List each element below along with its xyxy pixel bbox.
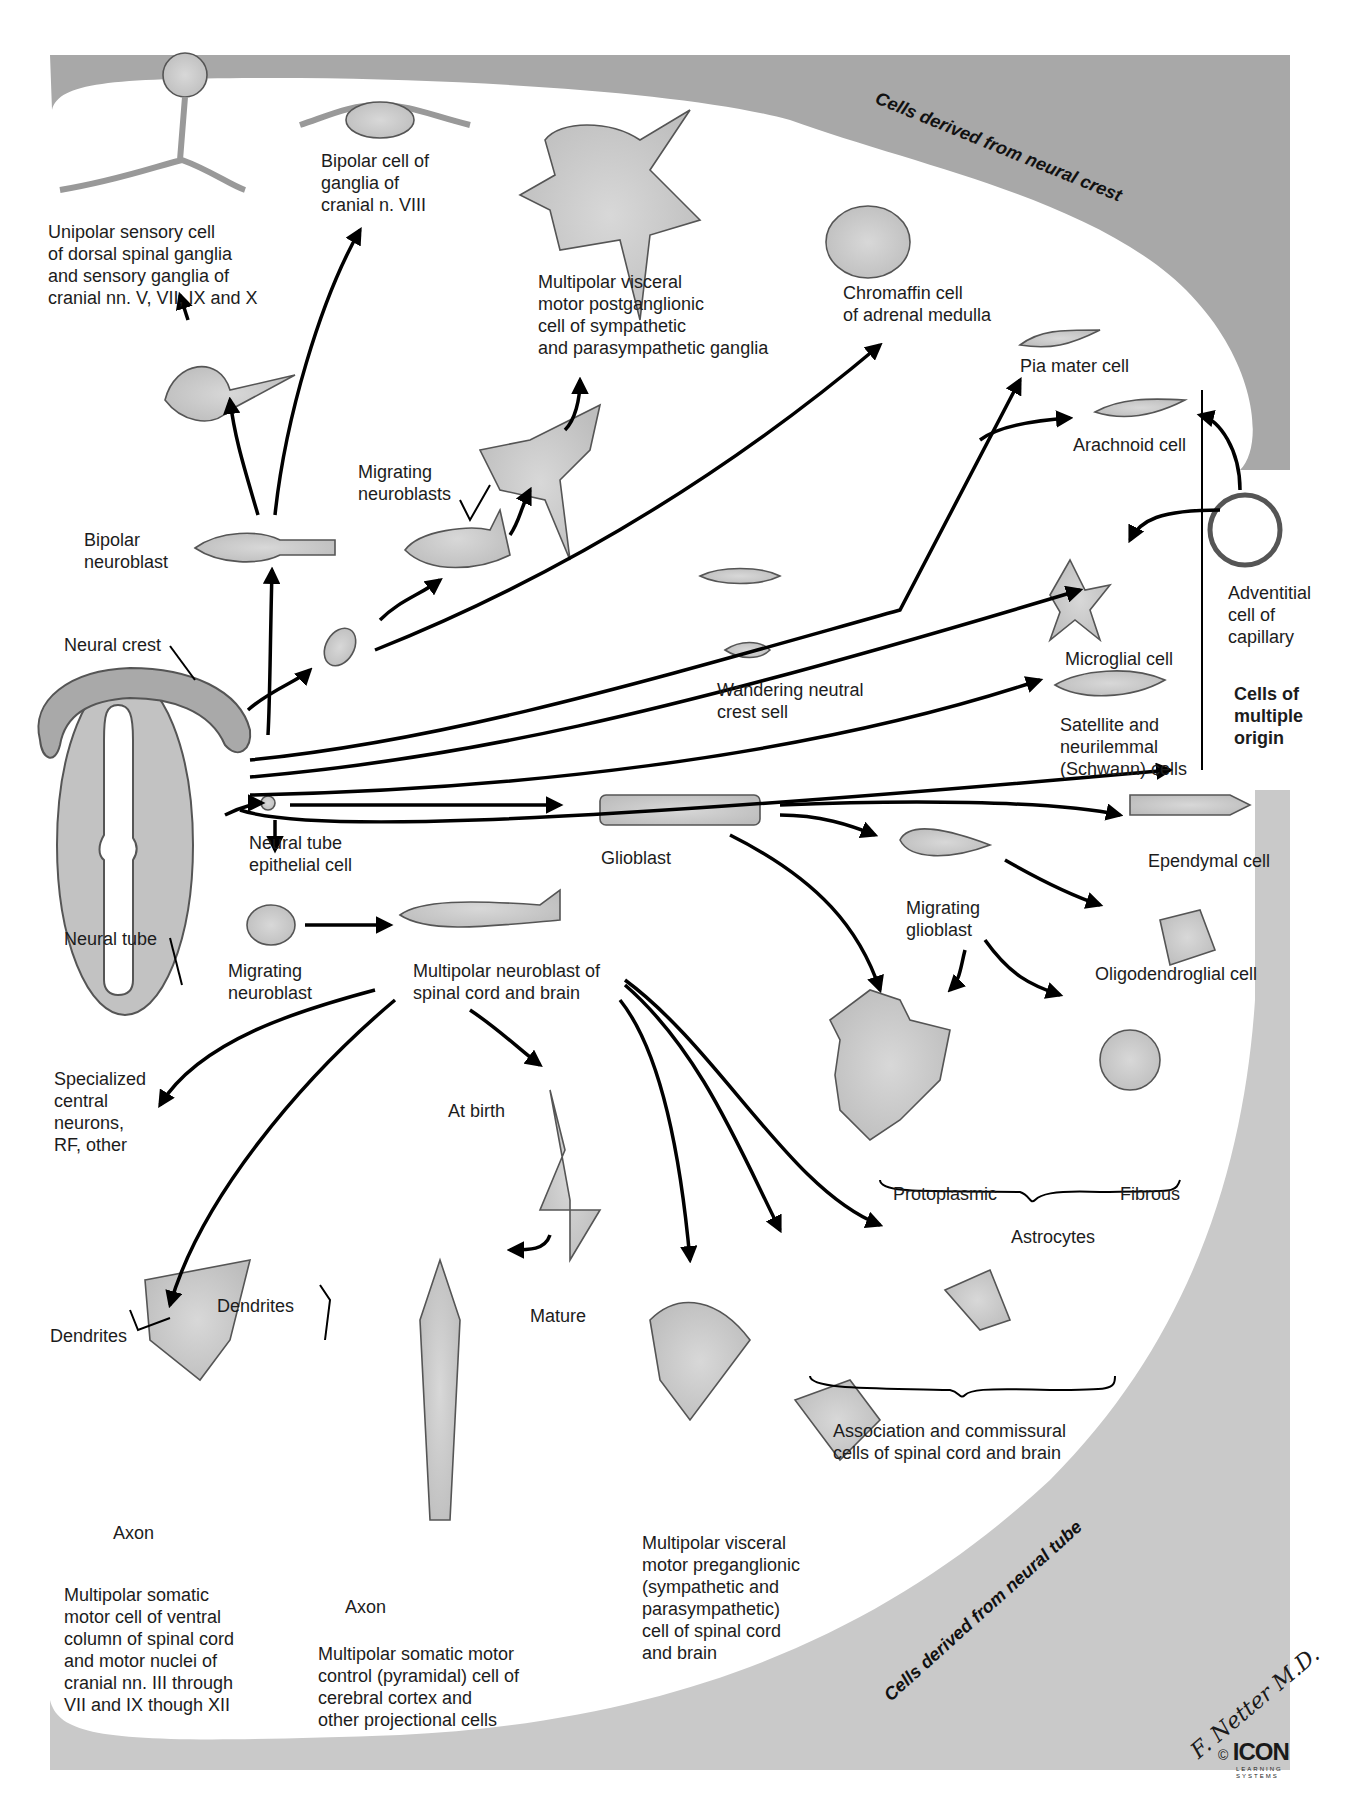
label-neural-tube: Neural tube (64, 928, 157, 950)
label-astrocytes: Astrocytes (1011, 1226, 1095, 1248)
label-multipolar-neuroblast: Multipolar neuroblast of spinal cord and… (413, 960, 600, 1004)
publisher-name: ICON (1233, 1738, 1289, 1765)
label-fibrous: Fibrous (1120, 1183, 1180, 1205)
label-bipolar-cell-viii: Bipolar cell of ganglia of cranial n. VI… (321, 150, 429, 216)
label-association-commissural: Association and commissural cells of spi… (833, 1420, 1066, 1464)
label-axon-somatic: Axon (113, 1522, 154, 1544)
label-unipolar-sensory-cell: Unipolar sensory cell of dorsal spinal g… (48, 221, 257, 309)
label-visceral-preganglionic: Multipolar visceral motor preganglionic … (642, 1532, 800, 1664)
label-dendrites-pyramidal: Dendrites (217, 1295, 294, 1317)
label-oligodendroglial-cell: Oligodendroglial cell (1095, 963, 1257, 985)
label-neural-tube-epithelial-cell: Neural tube epithelial cell (249, 832, 352, 876)
neural-tube-illustration (38, 668, 250, 1015)
label-at-birth: At birth (448, 1100, 505, 1122)
neural-development-diagram: Cells derived from neural crest Cells de… (0, 0, 1359, 1801)
label-glioblast: Glioblast (601, 847, 671, 869)
copyright-symbol: © (1218, 1747, 1228, 1763)
label-protoplasmic: Protoplasmic (893, 1183, 997, 1205)
label-axon-pyramidal: Axon (345, 1596, 386, 1618)
label-adventitial-cell: Adventitial cell of capillary (1228, 582, 1311, 648)
label-migrating-glioblast: Migrating glioblast (906, 897, 980, 941)
publisher-subtitle: LEARNING SYSTEMS (1236, 1766, 1289, 1780)
label-dendrites-somatic: Dendrites (50, 1325, 127, 1347)
label-satellite-schwann-cells: Satellite and neurilemmal (Schwann) cell… (1060, 714, 1187, 780)
label-ependymal-cell: Ependymal cell (1148, 850, 1270, 872)
label-migrating-neuroblasts: Migrating neuroblasts (358, 461, 451, 505)
label-wandering-crest-cell: Wandering neutral crest sell (717, 679, 863, 723)
label-somatic-motor-cell: Multipolar somatic motor cell of ventral… (64, 1584, 234, 1716)
label-chromaffin-cell: Chromaffin cell of adrenal medulla (843, 282, 991, 326)
label-microglial-cell: Microglial cell (1065, 648, 1173, 670)
label-cells-of-multiple-origin: Cells of multiple origin (1234, 683, 1303, 749)
label-arachnoid-cell: Arachnoid cell (1073, 434, 1186, 456)
label-multipolar-visceral-postganglionic: Multipolar visceral motor postganglionic… (538, 271, 768, 359)
label-pyramidal-cell: Multipolar somatic motor control (pyrami… (318, 1643, 519, 1731)
label-mature: Mature (530, 1305, 586, 1327)
label-bipolar-neuroblast: Bipolar neuroblast (84, 529, 168, 573)
label-specialized-central-neurons: Specialized central neurons, RF, other (54, 1068, 146, 1156)
label-pia-mater-cell: Pia mater cell (1020, 355, 1129, 377)
label-neural-crest: Neural crest (64, 634, 161, 656)
icon-logo: © ICON LEARNING SYSTEMS (1218, 1738, 1289, 1780)
label-migrating-neuroblast: Migrating neuroblast (228, 960, 312, 1004)
